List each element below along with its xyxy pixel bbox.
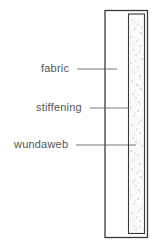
diagram-canvas: fabric stiffening wundaweb (0, 0, 155, 248)
label-wundaweb: wundaweb (14, 138, 68, 150)
cross-section-drawing (0, 0, 155, 248)
stiffening-layer (129, 14, 145, 234)
label-fabric: fabric (41, 62, 69, 74)
label-stiffening: stiffening (36, 101, 82, 113)
